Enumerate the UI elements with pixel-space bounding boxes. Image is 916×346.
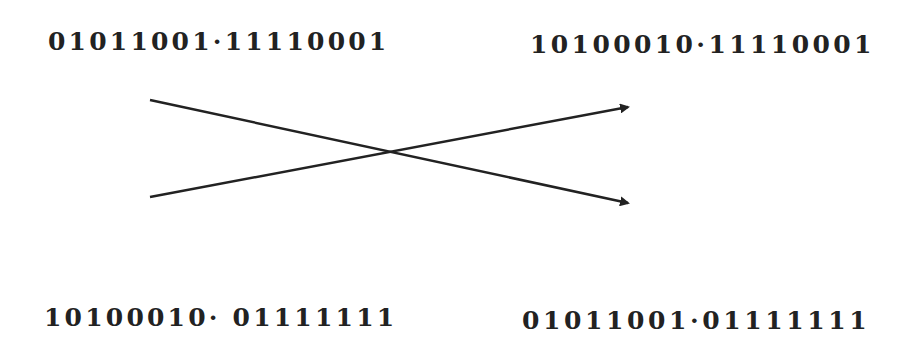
crossover-arrows <box>0 0 916 346</box>
arrow-bottom-left-to-top-right <box>150 107 628 197</box>
